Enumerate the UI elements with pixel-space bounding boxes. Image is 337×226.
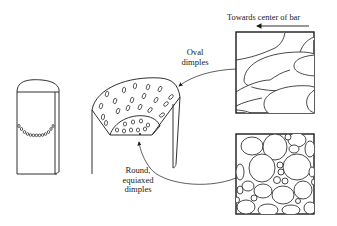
- oval-dimples-leader-arrow: [179, 69, 236, 86]
- round-dimples-label: Round, equiaxed dimples: [116, 166, 160, 195]
- oval-dimples-on-lip: [99, 83, 174, 126]
- oval-dimples-label: Oval dimples: [177, 48, 213, 67]
- fracture-surface-cup: [92, 78, 180, 174]
- round-dimples-label-line3: dimples: [116, 185, 160, 195]
- bar-top-fracture-edge: [17, 80, 59, 92]
- fractography-diagram: Towards center of bar Oval dimples Round…: [0, 0, 337, 226]
- fractured-bar-side-view: [17, 80, 59, 174]
- bar-dimple-chain: [18, 124, 54, 136]
- direction-label: Towards center of bar: [227, 13, 300, 23]
- round-dimples-micrograph: [235, 133, 317, 216]
- oval-dimples-label-line2: dimples: [177, 58, 213, 68]
- oval-dimples-micrograph: [236, 32, 318, 114]
